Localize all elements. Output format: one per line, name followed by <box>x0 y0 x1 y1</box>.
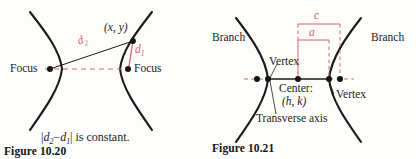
focus-left-dot <box>47 66 53 72</box>
transverse-axis-label: Transverse axis <box>256 113 327 125</box>
branch-right-label: Branch <box>371 32 404 44</box>
measure-c-label: c <box>314 10 319 22</box>
branch-left-label: Branch <box>212 32 245 44</box>
distance-d1-label: d1 <box>135 44 145 58</box>
figure-10-21-drawing <box>208 0 416 159</box>
vertex-right-dot <box>326 76 332 82</box>
focus-left-label: Focus <box>10 63 37 75</box>
center-coordinates-label: (h, k) <box>282 96 306 108</box>
figure-10-20-caption: Figure 10.20 <box>4 145 66 157</box>
vertex-left-label: Vertex <box>269 56 299 68</box>
vertex-left-dot <box>265 76 271 82</box>
focus-right-label: Focus <box>134 63 161 75</box>
figure-pair-image: Focus Focus (x, y) d2 d1 |d2−d1| is cons… <box>0 0 416 159</box>
center-label: Center: <box>279 83 313 95</box>
hyperbola-right-branch <box>329 18 361 142</box>
measure-a-label: a <box>309 27 315 39</box>
focus-right-dot <box>337 76 343 82</box>
vertex-right-label: Vertex <box>336 89 366 101</box>
focus-left-dot <box>254 76 260 82</box>
transverse-axis-leader-line <box>270 81 276 114</box>
figure-10-21-caption: Figure 10.21 <box>212 142 274 154</box>
figure-10-20-panel: Focus Focus (x, y) d2 d1 |d2−d1| is cons… <box>0 0 208 159</box>
focus-right-dot <box>125 66 131 72</box>
figure-10-21-panel: Branch Branch Vertex Vertex Center: (h, … <box>208 0 416 159</box>
point-xy-label: (x, y) <box>104 22 128 34</box>
